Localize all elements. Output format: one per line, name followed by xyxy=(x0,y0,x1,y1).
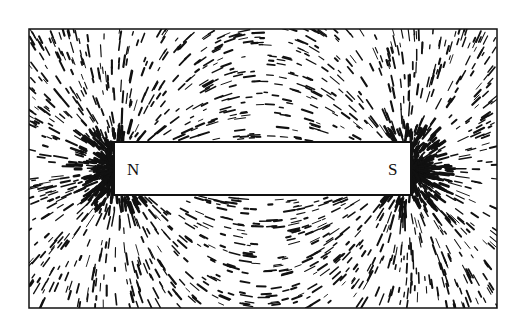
iron-filings-field xyxy=(0,0,517,334)
south-pole-label: S xyxy=(388,161,397,178)
bar-magnet xyxy=(114,142,411,195)
north-pole-label: N xyxy=(127,161,139,178)
magnet-field-diagram: N S xyxy=(0,0,517,334)
